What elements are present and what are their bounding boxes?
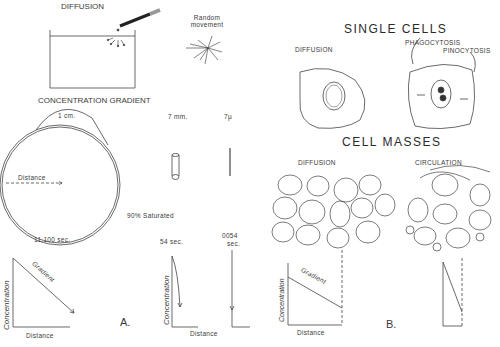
phagocytosis-label: PHAGOCYTOSIS [405, 39, 461, 46]
dropper-icon [117, 10, 160, 31]
random-movement-icon [186, 36, 222, 64]
pinocytosis-label: PINOCYTOSIS [443, 47, 491, 54]
cell-mass-diffusion [272, 175, 395, 248]
cell-masses-title: CELL MASSES [342, 135, 441, 149]
time-small-unit: sec. [227, 240, 240, 247]
circulation-label: CIRCULATION [415, 159, 462, 166]
cylinder-size-label: 7 mm. [168, 113, 188, 120]
cylinder-icon [172, 154, 179, 180]
panel-a-letter: A. [120, 316, 130, 328]
random-movement-label: Random movement [182, 14, 232, 28]
single-cell-diffusion-label: DIFFUSION [295, 46, 333, 53]
distance-arrow-label: Distance [18, 174, 46, 181]
beaker-icon [50, 30, 135, 88]
cell-mass-diffusion-label: DIFFUSION [298, 159, 336, 166]
graph-b [288, 250, 342, 325]
graph-a1-x-label: Distance [26, 332, 54, 339]
graph-a3 [230, 250, 250, 327]
graph-b-x-label: Distance [297, 329, 325, 336]
single-cell-diffusion [300, 68, 365, 128]
cell-mass-circulation [406, 165, 491, 251]
concentration-gradient-title: CONCENTRATION GRADIENT [38, 96, 151, 105]
diffusion-title: DIFFUSION [61, 2, 104, 11]
panel-b-letter: B. [386, 318, 396, 330]
graph-a2-x-label: Distance [190, 330, 218, 337]
time-mid-label: 54 sec. [160, 238, 183, 245]
molecule-icon [107, 38, 125, 47]
single-cells-title: SINGLE CELLS [344, 22, 447, 36]
micro-size-label: 7µ [224, 113, 232, 120]
saturated-label: 90% Saturated [127, 212, 174, 219]
graph-a1-y-label: Concentration [2, 280, 11, 330]
time-large-label: 11,100 sec. [34, 236, 70, 243]
diagram-drawing [0, 0, 500, 347]
graph-a2-y-label: Concentration [162, 275, 171, 325]
time-small-value: 0054 [222, 232, 238, 239]
graph-b2 [443, 258, 462, 326]
graph-b-y-label: Concentration [278, 278, 285, 322]
circle-width-label: 1 cm. [58, 112, 75, 119]
graph-a2 [172, 256, 198, 327]
